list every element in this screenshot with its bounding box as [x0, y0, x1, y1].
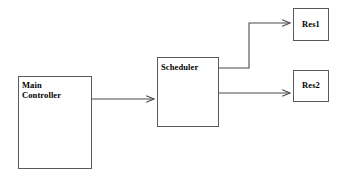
- node-res1-label: Res1: [293, 19, 329, 29]
- node-scheduler-label: Scheduler: [161, 62, 198, 72]
- node-res2-label: Res2: [293, 80, 329, 90]
- node-main-controller-label: Main Controller: [22, 80, 61, 100]
- diagram-canvas: Main Controller Scheduler Res1 Res2: [0, 0, 343, 176]
- edge-scheduler-to-res1: [219, 23, 290, 68]
